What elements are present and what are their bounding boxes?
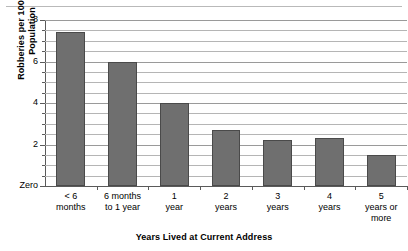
gridline: [45, 51, 407, 52]
y-axis-minor-tick-mark: [42, 51, 45, 52]
y-axis-tick-mark: [40, 186, 45, 187]
y-axis-tick-label: Zero: [19, 181, 38, 190]
y-axis-title-text: Robberies per 100,000 Population: [16, 0, 38, 80]
y-axis-tick-mark: [40, 145, 45, 146]
bar: [315, 138, 344, 186]
bar: [263, 140, 292, 186]
x-axis-tick-label: 6 months to 1 year: [97, 191, 149, 213]
x-axis-tick-mark: [304, 186, 305, 190]
x-axis-tick-mark: [148, 186, 149, 190]
y-axis-minor-tick-mark: [42, 113, 45, 114]
bar-chart-figure: Robberies per 100,000 Population 8642Zer…: [0, 0, 408, 251]
x-axis-tick-label: 2 years: [200, 191, 252, 213]
gridline: [45, 20, 407, 21]
x-axis-tick-label: 3 years: [252, 191, 304, 213]
y-axis-minor-tick-mark: [42, 93, 45, 94]
y-axis-minor-tick-mark: [42, 134, 45, 135]
x-axis-tick-mark: [355, 186, 356, 190]
y-axis-tick-label: 2: [33, 140, 38, 149]
x-axis-tick-mark: [200, 186, 201, 190]
gridline: [45, 124, 407, 125]
y-axis-minor-tick-mark: [42, 124, 45, 125]
x-axis-line: [45, 186, 407, 187]
x-axis-tick-label: 1 year: [148, 191, 200, 213]
y-axis-tick-mark: [40, 103, 45, 104]
x-axis-tick-label: 4 years: [304, 191, 356, 213]
gridline: [45, 30, 407, 31]
x-axis-title: Years Lived at Current Address: [0, 232, 408, 242]
y-axis-minor-tick-mark: [42, 41, 45, 42]
gridline: [45, 62, 407, 63]
x-axis-tick-label: 5 years or more: [355, 191, 407, 224]
y-axis-tick-label: 4: [33, 98, 38, 107]
bar: [160, 103, 189, 186]
bar: [56, 32, 85, 186]
gridline: [45, 72, 407, 73]
y-axis-minor-tick-mark: [42, 82, 45, 83]
page-top-rule: [6, 6, 402, 7]
y-axis-minor-tick-mark: [42, 165, 45, 166]
gridline: [45, 103, 407, 104]
y-axis-tick-label: 6: [33, 57, 38, 66]
x-axis-tick-label: < 6 months: [45, 191, 97, 213]
gridline: [45, 82, 407, 83]
gridline: [45, 41, 407, 42]
gridline: [45, 113, 407, 114]
x-axis-tick-mark: [97, 186, 98, 190]
y-axis-minor-tick-mark: [42, 30, 45, 31]
y-axis-minor-tick-mark: [42, 155, 45, 156]
x-axis-tick-mark: [252, 186, 253, 190]
bar: [108, 62, 137, 187]
gridline: [45, 93, 407, 94]
y-axis-tick-label: 8: [33, 15, 38, 24]
y-axis-tick-mark: [40, 20, 45, 21]
bar: [367, 155, 396, 186]
bar: [212, 130, 241, 186]
y-axis-minor-tick-mark: [42, 176, 45, 177]
y-axis-tick-mark: [40, 62, 45, 63]
y-axis-minor-tick-mark: [42, 72, 45, 73]
